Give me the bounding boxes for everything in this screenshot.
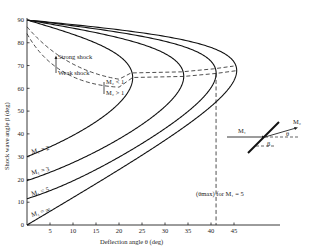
shock-inset-diagram: M₁ M₂ θ β [227, 118, 301, 153]
y-tick-label: 90 [18, 16, 25, 23]
x-axis-label: Deflection angle θ (deg) [100, 238, 163, 246]
strong-shock-label: Strong shock [58, 53, 93, 60]
label-m3: M₁ = 3 [31, 165, 50, 176]
x-tick-label: 15 [93, 227, 100, 234]
curve-m3 [27, 20, 184, 181]
x-tick-label: 35 [185, 227, 192, 234]
oblique-shock-chart: 510152025303540450102030405060708090 Def… [0, 0, 309, 252]
y-tick-label: 30 [18, 153, 25, 160]
x-tick-label: 40 [208, 227, 215, 234]
ticks: 510152025303540450102030405060708090 [18, 16, 238, 234]
theta-max-note: (θmax) for M₁ = 5 [196, 190, 244, 198]
y-tick-label: 80 [18, 39, 25, 46]
y-axis-label: Shock wave angle β (deg) [3, 102, 11, 170]
y-tick-label: 0 [21, 221, 24, 228]
x-tick-label: 5 [48, 227, 51, 234]
weak-shock-label: Weak shock [58, 69, 90, 76]
x-tick-label: 25 [139, 227, 146, 234]
x-tick-label: 30 [162, 227, 169, 234]
label-minf: M₁ = ∞ [30, 205, 51, 218]
x-tick-label: 10 [70, 227, 77, 234]
x-tick-label: 45 [231, 227, 238, 234]
m2-gt-1-label: M₂ > 1 [106, 89, 124, 96]
y-tick-label: 50 [18, 107, 25, 114]
label-m2: M₁ = 2 [31, 144, 50, 155]
inset-theta: θ [286, 130, 289, 137]
label-m5: M₁ = 5 [30, 185, 49, 197]
inset-m2: M₂ [293, 118, 301, 125]
y-tick-label: 10 [18, 198, 25, 205]
y-tick-label: 60 [18, 85, 25, 92]
m2-lt-1-label: M₂ < 1 [106, 78, 124, 85]
y-tick-label: 20 [18, 176, 25, 183]
inset-beta: β [267, 140, 271, 147]
inset-m1: M₁ [238, 127, 246, 134]
curve-m5 [27, 20, 216, 198]
y-tick-label: 40 [18, 130, 25, 137]
x-tick-label: 20 [116, 227, 123, 234]
y-tick-label: 70 [18, 62, 25, 69]
